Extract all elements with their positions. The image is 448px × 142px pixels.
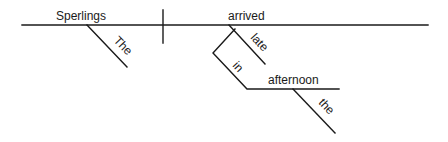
object-article-word: the <box>316 95 338 117</box>
sentence-diagram: Sperlings The arrived late in afternoon … <box>0 0 448 142</box>
verb-word: arrived <box>228 9 265 23</box>
adverb-word: late <box>248 30 272 54</box>
subject-word: Sperlings <box>56 9 106 23</box>
object-word: afternoon <box>268 73 319 87</box>
